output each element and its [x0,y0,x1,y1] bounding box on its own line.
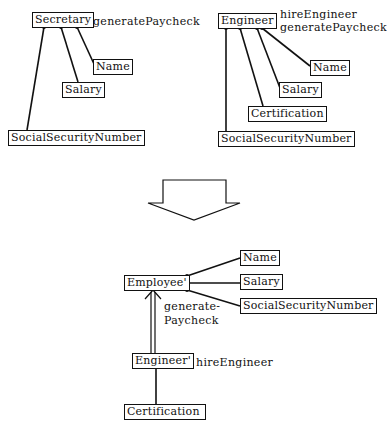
edge-secretary-ssn [27,27,44,130]
attr-certification: Certification [124,404,206,420]
edge-secretary-name [77,27,94,64]
attr-salary: Salary [62,82,105,98]
attr-name: Name [310,60,350,76]
edge-engineer-certification [240,28,263,106]
edge-engineer-salary [257,28,280,88]
down-arrow-icon [148,180,240,220]
attr-ssn: SocialSecurityNumber [218,131,355,147]
method-generate-paycheck: generatePaycheck [93,15,200,28]
method-generate-paycheck-line1: generate- [164,300,220,313]
attr-ssn: SocialSecurityNumber [8,130,145,146]
method-hire-engineer: hireEngineer [280,8,357,21]
method-generate-paycheck-line2: Paycheck [164,314,219,327]
class-engineer-prime: Engineer' [132,353,194,369]
attr-ssn: SocialSecurityNumber [240,298,377,314]
attr-salary: Salary [240,274,283,290]
method-generate-paycheck: generatePaycheck [280,21,387,34]
class-employee-prime: Employee' [124,275,190,291]
class-engineer: Engineer [218,13,277,29]
attr-salary: Salary [279,82,322,98]
attr-certification: Certification [248,106,327,122]
attr-name: Name [93,59,133,75]
edge-employee-name [187,258,240,276]
class-secretary: Secretary [32,12,94,28]
inheritance-arrow [145,290,161,354]
edge-secretary-salary [61,27,78,82]
attr-name: Name [240,250,280,266]
method-hire-engineer: hireEngineer [196,356,273,369]
